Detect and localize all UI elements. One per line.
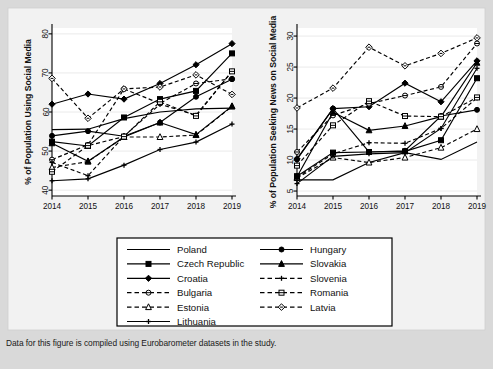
marker-czech-republic <box>439 138 444 143</box>
chart-panel-social-media-use: 4050607080201420152016201720182019% of P… <box>23 24 242 211</box>
y-tick-label: 15 <box>287 124 296 134</box>
legend-label-latvia: Latvia <box>310 302 336 313</box>
legend-label-estonia: Estonia <box>177 302 210 313</box>
marker-hungary <box>194 94 199 99</box>
y-tick-label: 80 <box>42 29 51 39</box>
x-tick-label: 2014 <box>288 202 307 211</box>
x-tick-label: 2014 <box>43 202 62 211</box>
legend-marker-czech-republic <box>146 261 151 266</box>
legend-label-czech-republic: Czech Republic <box>177 258 244 269</box>
plot-area <box>297 28 477 196</box>
y-tick-label: 60 <box>42 107 51 117</box>
legend-label-croatia: Croatia <box>177 273 209 284</box>
legend-label-lithuania: Lithuania <box>177 316 217 327</box>
x-tick-label: 2016 <box>115 202 134 211</box>
marker-hungary <box>86 129 91 134</box>
marker-hungary <box>295 157 300 162</box>
figure-root: 4050607080201420152016201720182019% of P… <box>0 0 493 369</box>
x-tick-label: 2015 <box>79 202 98 211</box>
marker-hungary <box>475 107 480 112</box>
legend-label-bulgaria: Bulgaria <box>177 287 213 298</box>
y-tick-label: 50 <box>42 146 51 156</box>
y-tick-label: 70 <box>42 68 51 78</box>
x-tick-label: 2018 <box>187 202 206 211</box>
x-tick-label: 2018 <box>432 202 451 211</box>
y-tick-label: 40 <box>42 185 51 195</box>
x-tick-label: 2017 <box>151 202 170 211</box>
marker-hungary <box>50 133 55 138</box>
marker-czech-republic <box>122 115 127 120</box>
x-tick-label: 2015 <box>324 202 343 211</box>
y-axis-title: % of Population Seeking News on Social M… <box>268 16 278 209</box>
x-tick-label: 2017 <box>396 202 415 211</box>
legend-box <box>117 238 392 326</box>
x-tick-label: 2019 <box>468 202 487 211</box>
y-tick-label: 25 <box>287 62 296 72</box>
x-tick-label: 2019 <box>223 202 242 211</box>
marker-hungary <box>367 149 372 154</box>
y-tick-label: 30 <box>287 31 296 41</box>
marker-hungary <box>230 77 235 82</box>
y-axis-title: % of Population Using Social Media <box>23 39 33 185</box>
legend-label-slovenia: Slovenia <box>310 273 347 284</box>
legend-label-romania: Romania <box>310 287 349 298</box>
y-tick-label: 5 <box>287 188 296 193</box>
legend-label-hungary: Hungary <box>310 244 346 255</box>
chart-legend: PolandCzech RepublicCroatiaBulgariaEston… <box>117 238 392 327</box>
marker-czech-republic <box>475 76 480 81</box>
legend-label-poland: Poland <box>177 244 207 255</box>
x-tick-label: 2016 <box>360 202 379 211</box>
y-tick-label: 20 <box>287 93 296 103</box>
chart-panel-news-seeking: 51015202530201420152016201720182019% of … <box>268 16 487 211</box>
legend-label-slovakia: Slovakia <box>310 258 347 269</box>
figure-caption: Data for this figure is compiled using E… <box>6 338 276 348</box>
marker-czech-republic <box>230 51 235 56</box>
marker-hungary <box>403 148 408 153</box>
marker-czech-republic <box>194 88 199 93</box>
legend-marker-hungary <box>279 247 284 252</box>
